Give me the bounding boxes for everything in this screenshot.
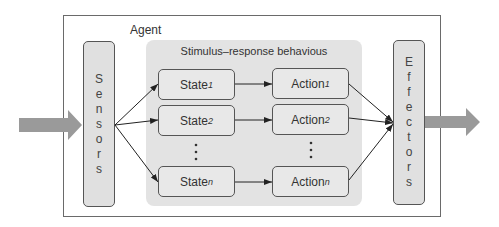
ellipsis-dots [195,142,313,161]
arrow-action2-effectors [349,118,393,123]
arrow-actionn-effectors [349,124,393,180]
output-arrow-icon [425,108,480,136]
arrow-action1-effectors [349,84,393,122]
input-arrow-icon [19,110,82,140]
connector-layer [0,0,499,227]
arrow-sensors-state2 [115,120,158,125]
arrow-sensors-staten [115,125,158,182]
arrow-sensors-state1 [115,84,158,125]
